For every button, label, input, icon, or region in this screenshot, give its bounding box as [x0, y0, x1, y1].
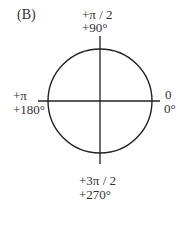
left-deg-label: +180° — [13, 103, 45, 117]
right-rad-label: 0 — [165, 88, 172, 102]
right-deg-label: 0° — [164, 102, 176, 116]
left-rad-label: +π — [13, 89, 27, 103]
bottom-deg-label: +270° — [79, 188, 111, 202]
top-deg-label: +90° — [82, 21, 108, 35]
bottom-rad-label: +3π / 2 — [79, 174, 116, 188]
